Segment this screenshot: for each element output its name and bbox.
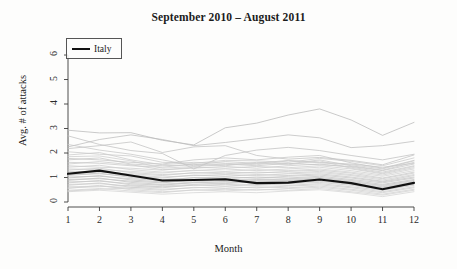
- x-axis-label: Month: [0, 243, 457, 254]
- y-tick-label-1: 1: [48, 169, 59, 183]
- y-axis-label: Avg. # of attacks: [17, 51, 28, 171]
- y-tick-label-0: 0: [48, 194, 59, 208]
- y-tick-label-4: 4: [48, 96, 59, 110]
- x-tick-label-10: 11: [373, 214, 393, 225]
- chart-figure: September 2010 – August 2011 Italy Avg. …: [0, 0, 457, 269]
- legend-label-italy: Italy: [94, 42, 111, 56]
- x-tick-label-1: 2: [89, 214, 109, 225]
- x-tick-label-5: 6: [215, 214, 235, 225]
- x-tick-label-7: 8: [278, 214, 298, 225]
- series-line: [68, 109, 414, 145]
- x-tick-label-11: 12: [404, 214, 424, 225]
- x-tick-label-0: 1: [58, 214, 78, 225]
- y-tick-label-6: 6: [48, 47, 59, 61]
- y-tick-label-2: 2: [48, 145, 59, 159]
- legend: Italy: [66, 38, 122, 59]
- y-tick-label-5: 5: [48, 71, 59, 85]
- x-tick-label-9: 10: [341, 214, 361, 225]
- y-tick-label-3: 3: [48, 120, 59, 134]
- x-tick-label-3: 4: [152, 214, 172, 225]
- legend-line-swatch: [72, 48, 90, 50]
- x-tick-label-4: 5: [184, 214, 204, 225]
- x-tick-label-6: 7: [247, 214, 267, 225]
- series-line: [68, 135, 414, 148]
- x-tick-label-2: 3: [121, 214, 141, 225]
- x-tick-label-8: 9: [310, 214, 330, 225]
